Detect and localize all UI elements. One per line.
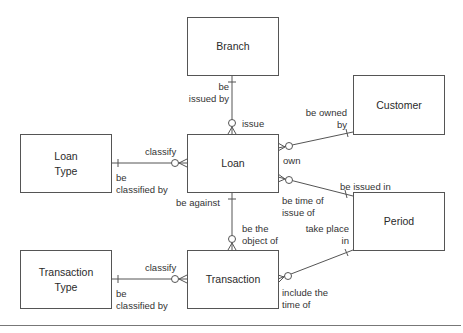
loantype-loan-line <box>111 159 187 167</box>
loan-transaction-line <box>228 192 236 250</box>
branch-loan-line <box>228 75 236 134</box>
label-be-issued-by: be issued by <box>170 81 229 105</box>
entity-period: Period <box>353 192 445 251</box>
entity-loan-type: Loan Type <box>20 134 112 193</box>
entity-transaction-type: Transaction Type <box>20 250 112 309</box>
bottom-rule <box>0 325 461 326</box>
label-be-against: be against <box>176 197 220 209</box>
label-be-the-object-of: be the object of <box>242 223 278 247</box>
entity-customer: Customer <box>353 75 445 135</box>
label-own: own <box>283 155 300 167</box>
label-be-time-of-issue-of: be time of issue of <box>282 195 324 219</box>
label-be-classified-by-txn: be classified by <box>116 288 168 312</box>
entity-branch: Branch <box>187 17 279 76</box>
entity-transaction: Transaction <box>187 250 279 309</box>
label-be-owned-by: be owned by <box>280 107 347 131</box>
customer-loan-line <box>278 129 353 151</box>
label-classify-txn: classify <box>145 262 176 274</box>
label-take-place-in: take place in <box>290 223 349 247</box>
entity-loan: Loan <box>187 134 279 193</box>
label-issue: issue <box>242 118 264 130</box>
label-be-issued-in: be issued in <box>340 181 391 193</box>
label-be-classified-by-loan: be classified by <box>116 172 168 196</box>
label-include-the-time-of: include the time of <box>282 287 328 311</box>
period-transaction-line <box>278 249 353 282</box>
label-classify-loan: classify <box>145 146 176 158</box>
txntype-transaction-line <box>111 275 187 283</box>
